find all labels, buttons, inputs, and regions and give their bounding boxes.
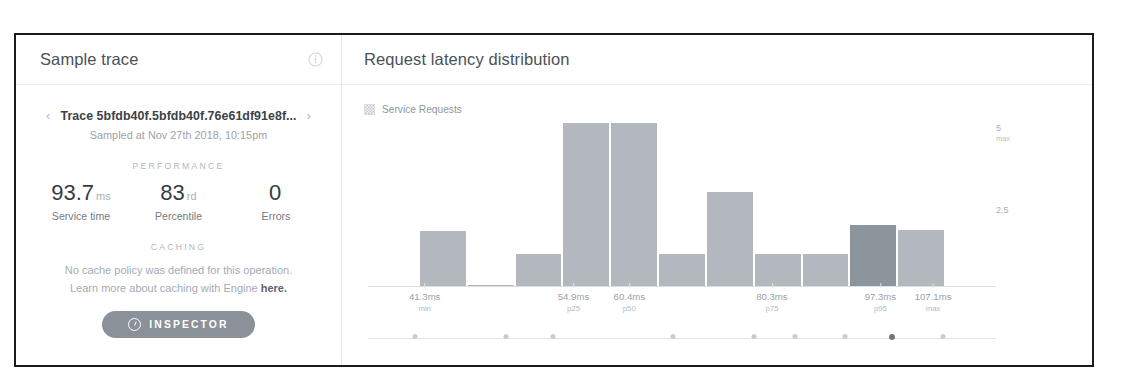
inspector-button-label: INSPECTOR — [149, 319, 228, 330]
x-axis-tick-mark — [629, 283, 630, 288]
timeline-dot[interactable] — [940, 334, 945, 339]
sample-trace-panel: Sample trace ‹ Trace 5bfdb40f.5bfdb40f.7… — [16, 35, 342, 365]
histogram-bar[interactable] — [516, 254, 562, 287]
x-axis-tick-mark — [425, 283, 426, 288]
sample-trace-body: ‹ Trace 5bfdb40f.5bfdb40f.76e61df91e8f..… — [16, 85, 341, 365]
inspector-circle-icon — [128, 318, 141, 331]
caching-message: No cache policy was defined for this ope… — [32, 261, 325, 297]
x-tick-value: 80.3ms — [756, 291, 787, 302]
inspector-button[interactable]: INSPECTOR — [102, 311, 254, 338]
metric-errors-value: 0 — [269, 180, 281, 205]
y-tick-sublabel: max — [996, 134, 1010, 143]
x-tick-value: 97.3ms — [865, 291, 896, 302]
x-axis-tick-mark — [574, 283, 575, 288]
trace-navigator: ‹ Trace 5bfdb40f.5bfdb40f.76e61df91e8f..… — [32, 107, 325, 124]
caching-message-line2: Learn more about caching with Engine her… — [32, 279, 325, 297]
chevron-left-icon[interactable]: ‹ — [45, 107, 51, 124]
x-axis-tick-label: 60.4msp50 — [614, 291, 645, 313]
timeline-dot[interactable] — [843, 334, 848, 339]
legend-label-service-requests: Service Requests — [382, 104, 462, 115]
histogram-bars — [372, 123, 992, 287]
trace-id-label[interactable]: Trace 5bfdb40f.5bfdb40f.76e61df91e8f... — [60, 109, 296, 123]
histogram-bar[interactable] — [898, 230, 944, 287]
x-axis-tick-label: 54.9msp25 — [558, 291, 589, 313]
x-tick-value: 54.9ms — [558, 291, 589, 302]
x-tick-value: 60.4ms — [614, 291, 645, 302]
x-tick-percentile: p25 — [558, 304, 589, 313]
x-tick-value: 41.3ms — [409, 291, 440, 302]
x-axis-line — [368, 286, 996, 287]
latency-distribution-header: Request latency distribution — [342, 35, 1092, 85]
histogram-bar[interactable] — [563, 123, 609, 287]
info-circle-icon[interactable] — [308, 52, 323, 67]
x-tick-percentile: p75 — [756, 304, 787, 313]
timeline-axis-line — [368, 338, 996, 339]
histogram-bar[interactable] — [755, 254, 801, 287]
chevron-right-icon[interactable]: › — [306, 107, 312, 124]
performance-section-heading: PERFORMANCE — [32, 161, 325, 171]
timeline-dot[interactable] — [752, 334, 757, 339]
histogram-bar[interactable] — [850, 225, 896, 287]
x-tick-percentile: p50 — [614, 304, 645, 313]
latency-distribution-panel: Request latency distribution Service Req… — [342, 35, 1092, 365]
trace-timeline-strip[interactable] — [368, 329, 996, 347]
timeline-dot[interactable] — [413, 334, 418, 339]
timeline-dot[interactable] — [793, 334, 798, 339]
timeline-dot[interactable] — [504, 334, 509, 339]
histogram-bar[interactable] — [659, 254, 705, 287]
performance-metrics: 93.7ms Service time 83rd Percentile 0 Er… — [32, 181, 325, 222]
histogram-bar[interactable] — [420, 231, 466, 287]
trace-dashboard-card: Sample trace ‹ Trace 5bfdb40f.5bfdb40f.7… — [14, 33, 1094, 367]
metric-service-time-unit: ms — [96, 190, 111, 202]
x-axis-tick-label: 107.1msmax — [915, 291, 952, 313]
y-axis-labels: 5max2.5 — [996, 123, 1056, 287]
histogram-bar[interactable] — [803, 254, 849, 287]
sample-trace-header: Sample trace — [16, 35, 341, 85]
x-tick-percentile: max — [915, 304, 952, 313]
metric-errors: 0 Errors — [241, 181, 311, 222]
timeline-dot-selected[interactable] — [889, 334, 895, 340]
metric-service-time-value: 93.7 — [51, 180, 94, 205]
trace-sampled-at: Sampled at Nov 27th 2018, 10:15pm — [32, 129, 325, 141]
caching-message-prefix: Learn more about caching with Engine — [70, 282, 261, 294]
latency-distribution-title: Request latency distribution — [364, 50, 570, 69]
inspector-button-wrap: INSPECTOR — [32, 311, 325, 338]
x-tick-value: 107.1ms — [915, 291, 952, 302]
chart-plot-area: 41.3msmin54.9msp2560.4msp5080.3msp7597.3… — [342, 117, 1092, 365]
x-axis-tick-mark — [933, 283, 934, 288]
metric-percentile-unit: rd — [187, 190, 197, 202]
histogram-bar[interactable] — [611, 123, 657, 287]
page-title: Sample trace — [40, 50, 138, 69]
y-axis-tick-label: 5max — [996, 123, 1010, 144]
x-tick-percentile: min — [409, 304, 440, 313]
y-axis-tick-label: 2.5 — [996, 205, 1009, 216]
x-tick-percentile: p95 — [865, 304, 896, 313]
caching-message-line1: No cache policy was defined for this ope… — [32, 261, 325, 279]
metric-percentile-label: Percentile — [144, 210, 214, 222]
legend-swatch-icon — [364, 104, 375, 115]
metric-service-time-label: Service time — [46, 210, 116, 222]
timeline-dot[interactable] — [670, 334, 675, 339]
histogram-plot — [372, 123, 992, 287]
x-axis-tick-label: 97.3msp95 — [865, 291, 896, 313]
x-axis-tick-label: 41.3msmin — [409, 291, 440, 313]
caching-section-heading: CACHING — [32, 242, 325, 252]
caching-learn-more-link[interactable]: here. — [261, 282, 287, 294]
metric-percentile: 83rd Percentile — [144, 181, 214, 222]
metric-percentile-value: 83 — [160, 180, 184, 205]
metric-errors-label: Errors — [241, 210, 311, 222]
x-axis-tick-label: 80.3msp75 — [756, 291, 787, 313]
timeline-dot[interactable] — [551, 334, 556, 339]
metric-service-time: 93.7ms Service time — [46, 181, 116, 222]
x-axis-tick-mark — [772, 283, 773, 288]
chart-legend: Service Requests — [342, 85, 1092, 117]
x-axis-labels: 41.3msmin54.9msp2560.4msp5080.3msp7597.3… — [372, 291, 992, 321]
histogram-bar[interactable] — [707, 192, 753, 287]
x-axis-tick-mark — [880, 283, 881, 288]
